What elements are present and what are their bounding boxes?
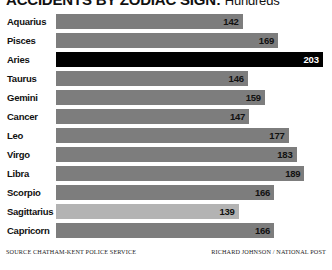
chart-title: ACCIDENTS BY ZODIAC SIGN: Hundreds [6,0,279,8]
chart-row: Virgo183 [0,145,332,164]
category-label: Scorpio [0,183,56,202]
bar-track: 166 [56,185,332,200]
chart-title-container: ACCIDENTS BY ZODIAC SIGN: Hundreds [0,0,332,9]
bar-track: 177 [56,128,332,143]
chart-row: Libra189 [0,164,332,183]
bar-track: 183 [56,147,332,162]
chart-row: Pisces169 [0,31,332,50]
bar: 159 [56,90,265,105]
chart-row: Capricorn166 [0,221,332,240]
category-label: Aquarius [0,12,56,31]
bar: 146 [56,71,248,86]
bar: 147 [56,109,249,124]
bar-track: 146 [56,71,332,86]
bar-value-label: 189 [285,166,300,181]
bar-track: 166 [56,223,332,238]
chart-row: Gemini159 [0,88,332,107]
bar-value-label: 166 [255,223,270,238]
category-label: Libra [0,164,56,183]
chart-footer: SOURCE CHATHAM-KENT POLICE SERVICE RICHA… [0,248,332,255]
bar-value-label: 139 [219,204,234,219]
category-label: Virgo [0,145,56,164]
bar-track: 169 [56,33,332,48]
bar-track: 139 [56,204,332,219]
bar-value-label: 142 [223,14,238,29]
bar: 183 [56,147,297,162]
chart-row: Leo177 [0,126,332,145]
category-label: Capricorn [0,221,56,240]
bar: 169 [56,33,278,48]
bar-track: 147 [56,109,332,124]
category-label: Taurus [0,69,56,88]
bar: 142 [56,14,243,29]
bar-value-label: 169 [259,33,274,48]
category-label: Aries [0,50,56,69]
category-label: Cancer [0,107,56,126]
chart-title-main: ACCIDENTS BY ZODIAC SIGN: [6,0,221,8]
bar: 189 [56,166,304,181]
chart-row: Scorpio166 [0,183,332,202]
bar-value-label: 183 [277,147,292,162]
bar: 203 [56,52,323,67]
chart-plot-area: Aquarius142Pisces169Aries203Taurus146Gem… [0,12,332,240]
bar: 166 [56,223,274,238]
bar-track: 159 [56,90,332,105]
bar-value-label: 203 [304,52,319,67]
chart-row: Taurus146 [0,69,332,88]
chart-subtitle: Hundreds [225,0,280,8]
chart-row: Aries203 [0,50,332,69]
bar: 139 [56,204,239,219]
category-label: Sagittarius [0,202,56,221]
bar-track: 189 [56,166,332,181]
category-label: Leo [0,126,56,145]
category-label: Gemini [0,88,56,107]
bar: 177 [56,128,289,143]
chart-row: Cancer147 [0,107,332,126]
bar-track: 203 [56,52,332,67]
category-label: Pisces [0,31,56,50]
bar-value-label: 177 [269,128,284,143]
bar-track: 142 [56,14,332,29]
bar: 166 [56,185,274,200]
source-credit: SOURCE CHATHAM-KENT POLICE SERVICE [6,248,136,255]
zodiac-accidents-bar-chart: ACCIDENTS BY ZODIAC SIGN: Hundreds Aquar… [0,0,332,270]
bar-value-label: 159 [246,90,261,105]
chart-row: Sagittarius139 [0,202,332,221]
author-credit: RICHARD JOHNSON / NATIONAL POST [211,248,326,255]
bar-value-label: 166 [255,185,270,200]
bar-value-label: 147 [230,109,245,124]
bar-value-label: 146 [229,71,244,86]
chart-row: Aquarius142 [0,12,332,31]
